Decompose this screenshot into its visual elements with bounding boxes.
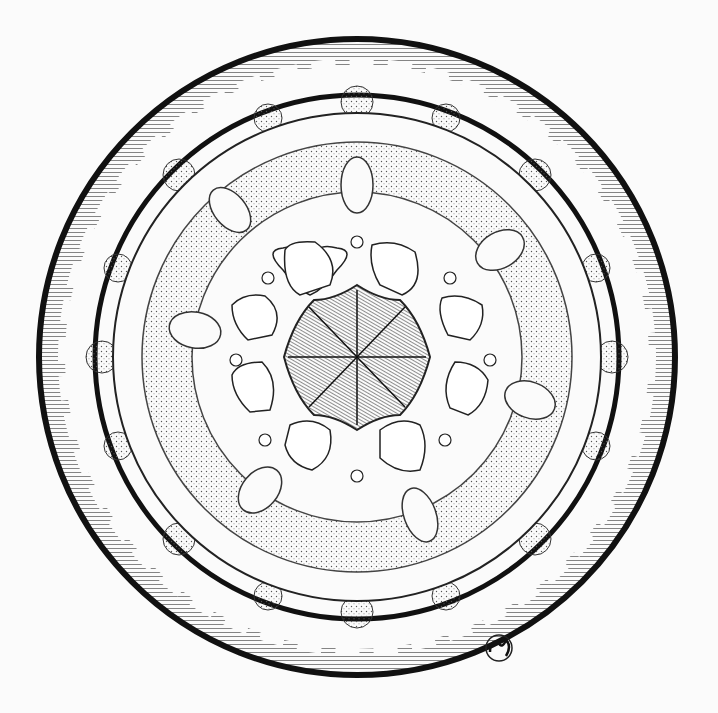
mandala-artwork [0, 0, 718, 713]
